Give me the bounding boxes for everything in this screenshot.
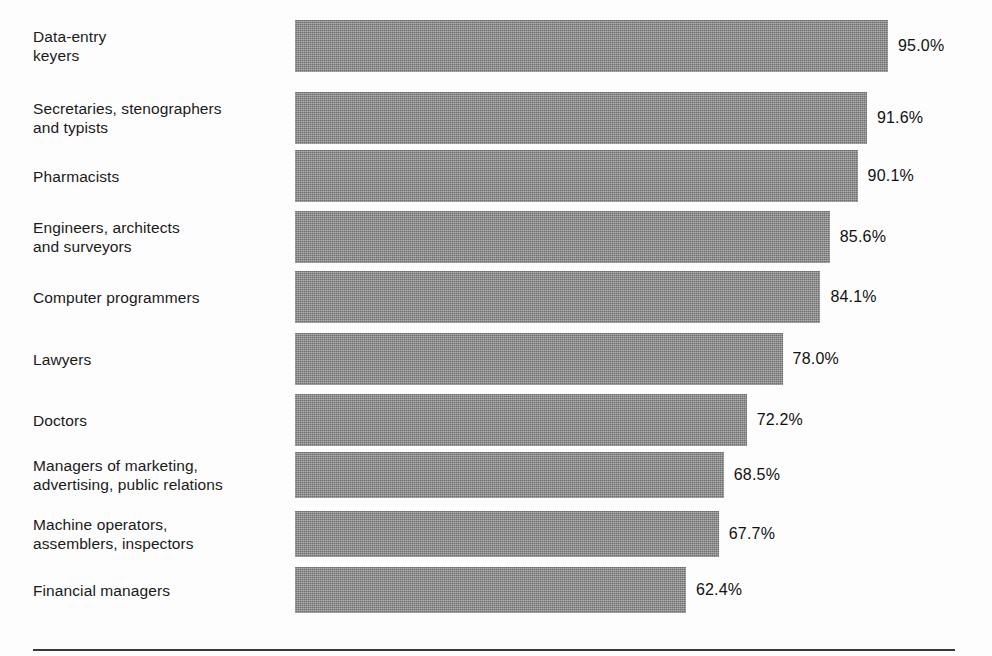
bar-value-label: 78.0%: [793, 350, 839, 368]
bar-row: Doctors72.2%: [0, 394, 992, 446]
category-label: Pharmacists: [33, 167, 288, 186]
bar[interactable]: [295, 150, 858, 202]
bar[interactable]: [295, 452, 724, 498]
bar-value-label: 91.6%: [877, 109, 923, 127]
plot-area: Data-entry keyers95.0%Secretaries, steno…: [0, 0, 992, 628]
bar-row: Machine operators, assemblers, inspector…: [0, 511, 992, 557]
category-label: Data-entry keyers: [33, 27, 288, 65]
bar-row: Data-entry keyers95.0%: [0, 20, 992, 72]
bar[interactable]: [295, 92, 867, 144]
bar-chart: Data-entry keyers95.0%Secretaries, steno…: [0, 0, 992, 656]
bar-value-label: 62.4%: [696, 581, 742, 599]
bar[interactable]: [295, 567, 686, 613]
bar[interactable]: [295, 333, 783, 385]
bar[interactable]: [295, 271, 820, 323]
bar-value-label: 95.0%: [898, 37, 944, 55]
bar[interactable]: [295, 511, 719, 557]
bottom-divider-rule: [33, 649, 955, 651]
bar[interactable]: [295, 394, 747, 446]
bar[interactable]: [295, 211, 830, 263]
bar-track: 91.6%: [295, 92, 992, 144]
category-label: Secretaries, stenographers and typists: [33, 99, 288, 137]
bar-row: Pharmacists90.1%: [0, 150, 992, 202]
bar-value-label: 72.2%: [757, 411, 803, 429]
bar-track: 78.0%: [295, 333, 992, 385]
bar-row: Managers of marketing, advertising, publ…: [0, 452, 992, 498]
bar-value-label: 68.5%: [734, 466, 780, 484]
bar-value-label: 67.7%: [729, 525, 775, 543]
category-label: Lawyers: [33, 350, 288, 369]
bar-track: 67.7%: [295, 511, 992, 557]
bar[interactable]: [295, 20, 888, 72]
category-label: Doctors: [33, 411, 288, 430]
bar-track: 68.5%: [295, 452, 992, 498]
bar-row: Computer programmers84.1%: [0, 271, 992, 323]
bar-row: Engineers, architects and surveyors85.6%: [0, 211, 992, 263]
bar-track: 72.2%: [295, 394, 992, 446]
bar-row: Secretaries, stenographers and typists91…: [0, 92, 992, 144]
bar-row: Financial managers62.4%: [0, 567, 992, 613]
category-label: Financial managers: [33, 581, 288, 600]
bar-track: 90.1%: [295, 150, 992, 202]
bar-value-label: 85.6%: [840, 228, 886, 246]
category-label: Managers of marketing, advertising, publ…: [33, 456, 288, 494]
bar-track: 84.1%: [295, 271, 992, 323]
category-label: Machine operators, assemblers, inspector…: [33, 515, 288, 553]
bar-row: Lawyers78.0%: [0, 333, 992, 385]
category-label: Computer programmers: [33, 288, 288, 307]
bar-track: 62.4%: [295, 567, 992, 613]
category-label: Engineers, architects and surveyors: [33, 218, 288, 256]
bar-value-label: 84.1%: [830, 288, 876, 306]
bar-value-label: 90.1%: [868, 167, 914, 185]
bar-track: 85.6%: [295, 211, 992, 263]
bar-track: 95.0%: [295, 20, 992, 72]
